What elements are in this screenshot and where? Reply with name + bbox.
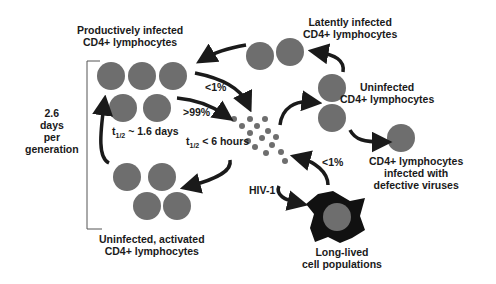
label-pct-lt1-bottom: <1% (322, 156, 343, 168)
text: < 6 hours (199, 135, 249, 147)
text: CD4+ lymphocytes (369, 155, 463, 167)
label-long-lived: Long-lived cell populations (302, 246, 382, 270)
text: 2.6 (25, 107, 79, 119)
text: infected with (369, 167, 463, 179)
text: Uninfected, activated (99, 233, 205, 245)
label-pct-lt1-top: <1% (205, 81, 226, 93)
text: days (25, 119, 79, 131)
label-activated: Uninfected, activated CD4+ lymphocytes (99, 233, 205, 257)
text: 1/2 (190, 142, 200, 149)
defective-cell (387, 124, 415, 152)
text: generation (25, 143, 79, 155)
text: CD4+ lymphocytes (99, 245, 205, 257)
label-latently-infected: Latently infected CD4+ lymphocytes (303, 16, 397, 40)
label-uninfected: Uninfected CD4+ lymphocytes (340, 81, 434, 105)
text: ~ 1.6 days (125, 125, 178, 137)
label-productively-infected: Productively infected CD4+ lymphocytes (77, 24, 183, 48)
text: cell populations (302, 258, 382, 270)
text: CD4+ lymphocytes (77, 36, 183, 48)
label-hiv: HIV-1 (249, 184, 275, 196)
label-half-life-cells: t1/2 ~ 1.6 days (112, 125, 179, 142)
text: Long-lived (302, 246, 382, 258)
text: 1/2 (116, 132, 126, 139)
text: Productively infected (77, 24, 183, 36)
latently-infected-cells (246, 38, 304, 70)
label-pct-gt99: >99% (183, 106, 210, 118)
productively-infected-cells (97, 62, 187, 122)
text: Latently infected (303, 16, 397, 28)
text: defective viruses (369, 179, 463, 191)
text: CD4+ lymphocytes (303, 28, 397, 40)
text: CD4+ lymphocytes (340, 93, 434, 105)
text: Uninfected (340, 81, 434, 93)
label-defective: CD4+ lymphocytes infected with defective… (369, 155, 463, 191)
activated-cells (113, 163, 191, 220)
label-generation: 2.6 days per generation (25, 107, 79, 155)
label-half-life-virus: t1/2 < 6 hours (186, 135, 249, 152)
text: per (25, 131, 79, 143)
